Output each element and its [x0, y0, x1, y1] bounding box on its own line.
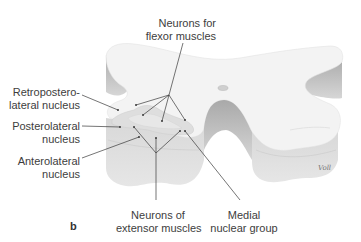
- label-retroposterolateral-nucleus: Retropostero- lateral nucleus: [0, 86, 80, 112]
- label-flexor-neurons: Neurons for flexor muscles: [140, 17, 216, 43]
- spinal-cord-diagram: Voll: [0, 0, 361, 242]
- label-extensor-neurons: Neurons of extensor muscles: [116, 209, 200, 235]
- central-canal: [218, 86, 228, 91]
- label-anterolateral-nucleus: Anterolateral nucleus: [0, 155, 80, 181]
- panel-letter: b: [70, 220, 77, 232]
- label-posterolateral-nucleus: Posterolateral nucleus: [0, 120, 80, 146]
- label-medial-nuclear-group: Medial nuclear group: [210, 209, 278, 235]
- artist-signature: Voll: [318, 164, 331, 172]
